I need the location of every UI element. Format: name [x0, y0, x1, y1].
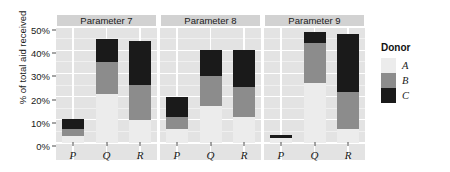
- bar-segment-c: [337, 34, 359, 92]
- bar-segment-a: [337, 129, 359, 143]
- x-axis-panel: PQR: [160, 142, 261, 172]
- facet-strip-label: Parameter 8: [160, 14, 261, 27]
- legend-entry: C: [381, 88, 447, 103]
- x-axis-tick-label: R: [345, 149, 352, 161]
- bar-segment-b: [129, 85, 151, 120]
- x-axis: PQRPQRPQR: [56, 142, 365, 172]
- legend-swatch-a: [381, 58, 396, 73]
- facet-strip-label: Parameter 9: [264, 14, 365, 27]
- bar: [166, 27, 188, 143]
- x-axis-tick-label: P: [69, 149, 76, 161]
- bar-segment-a: [233, 117, 255, 143]
- y-axis-tick-label: 0%: [36, 141, 50, 152]
- bar: [304, 27, 326, 143]
- legend-swatch-c: [381, 88, 396, 103]
- x-axis-tick-label: R: [241, 149, 248, 161]
- plot-area: [160, 27, 261, 160]
- legend-items: ABC: [381, 58, 447, 103]
- bar-segment-b: [200, 76, 222, 106]
- bar-segment-a: [166, 129, 188, 143]
- legend-label-c: C: [402, 90, 409, 101]
- x-axis-tick-mark: [176, 142, 177, 146]
- x-axis-tick-label: Q: [311, 149, 319, 161]
- x-axis-tick-mark: [348, 142, 349, 146]
- bar-segment-c: [304, 32, 326, 44]
- bar-segment-b: [304, 43, 326, 82]
- plot-area: [264, 27, 365, 160]
- x-axis-tick-label: P: [173, 149, 180, 161]
- facet-panel: Parameter 7: [56, 14, 157, 160]
- x-axis-tick-label: Q: [103, 149, 111, 161]
- y-axis: 50%40%30%20%10%0%: [18, 22, 56, 138]
- facet-panel: Parameter 8: [160, 14, 261, 160]
- bar-segment-c: [200, 50, 222, 76]
- bar-segment-c: [129, 41, 151, 85]
- facet-strip-label: Parameter 7: [56, 14, 157, 27]
- x-axis-tick-label: R: [137, 149, 144, 161]
- x-axis-panel: PQR: [264, 142, 365, 172]
- x-axis-tick-mark: [280, 142, 281, 146]
- y-axis-tick-label: 50%: [31, 25, 50, 36]
- bar: [337, 27, 359, 143]
- bar-segment-c: [62, 119, 84, 129]
- legend: Donor ABC: [381, 42, 447, 103]
- bar-segment-b: [233, 87, 255, 117]
- bar-segment-b: [337, 92, 359, 129]
- bar-segment-b: [166, 117, 188, 129]
- x-axis-tick-label: Q: [207, 149, 215, 161]
- bar: [200, 27, 222, 143]
- legend-title: Donor: [381, 42, 447, 53]
- bar-segment-a: [304, 83, 326, 143]
- y-axis-tick-label: 30%: [31, 71, 50, 82]
- bar-segment-c: [233, 50, 255, 87]
- bar: [62, 27, 84, 143]
- bar-segment-b: [96, 62, 118, 94]
- x-axis-tick-mark: [210, 142, 211, 146]
- chart-figure: % of total aid received 50%40%30%20%10%0…: [0, 0, 450, 172]
- legend-label-a: A: [402, 60, 408, 71]
- bar: [270, 27, 292, 143]
- bar-segment-a: [200, 106, 222, 143]
- y-axis-tick-label: 40%: [31, 48, 50, 59]
- legend-label-b: B: [402, 75, 408, 86]
- x-axis-tick-mark: [140, 142, 141, 146]
- x-axis-panel: PQR: [56, 142, 157, 172]
- facet-panels: Parameter 7Parameter 8Parameter 9: [56, 14, 365, 160]
- x-axis-tick-mark: [244, 142, 245, 146]
- plot-area: [56, 27, 157, 160]
- legend-entry: A: [381, 58, 447, 73]
- bar: [129, 27, 151, 143]
- x-axis-tick-label: P: [277, 149, 284, 161]
- legend-swatch-b: [381, 73, 396, 88]
- bar-segment-a: [129, 120, 151, 143]
- bar-segment-c: [96, 39, 118, 62]
- x-axis-tick-mark: [106, 142, 107, 146]
- bar-segment-c: [270, 135, 292, 138]
- x-axis-tick-mark: [72, 142, 73, 146]
- x-axis-tick-mark: [314, 142, 315, 146]
- bar-segment-a: [96, 94, 118, 143]
- y-axis-tick-label: 20%: [31, 94, 50, 105]
- bar: [96, 27, 118, 143]
- bar-segment-c: [166, 97, 188, 118]
- y-axis-tick-label: 10%: [31, 117, 50, 128]
- bar: [233, 27, 255, 143]
- legend-entry: B: [381, 73, 447, 88]
- bar-segment-b: [62, 129, 84, 136]
- facet-panel: Parameter 9: [264, 14, 365, 160]
